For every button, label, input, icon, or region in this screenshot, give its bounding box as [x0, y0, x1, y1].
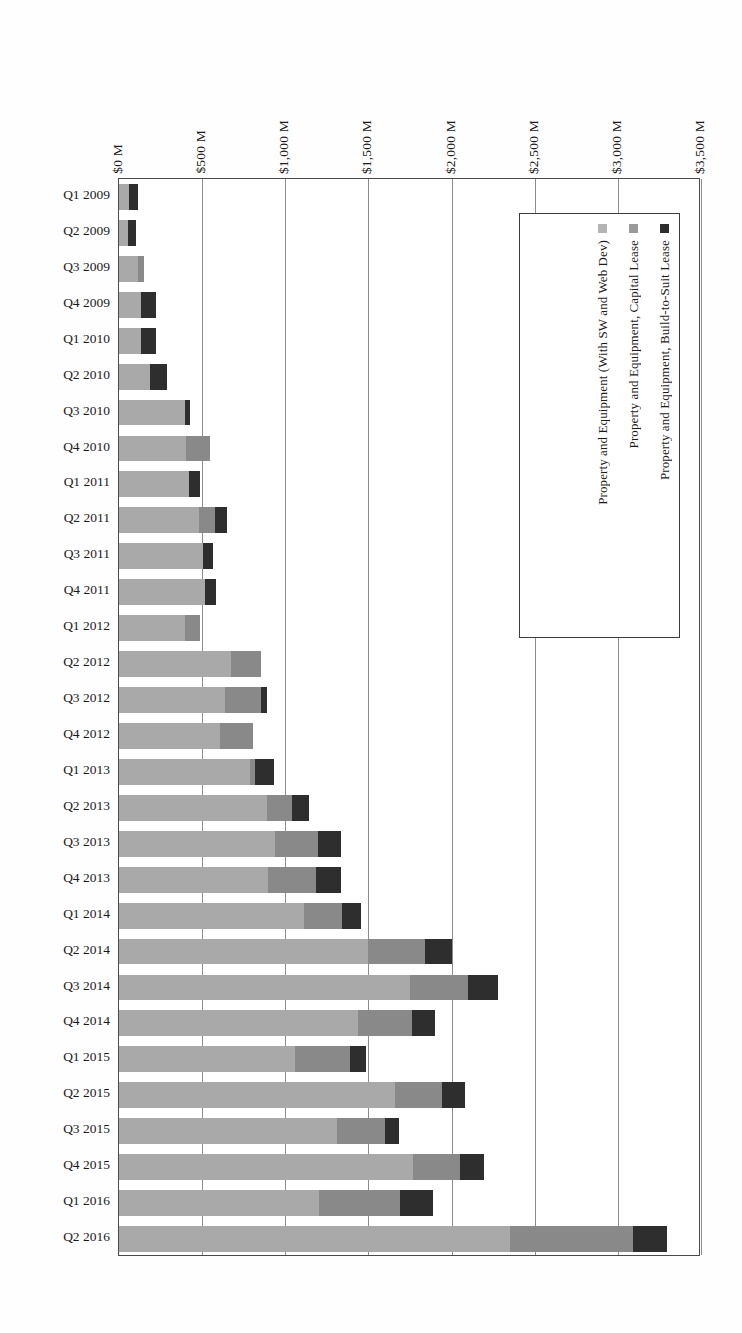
- bar-segment-build[interactable]: [189, 471, 201, 497]
- bar-segment-build[interactable]: [442, 1082, 465, 1108]
- legend-item-2[interactable]: Property and Equipment (With SW and Web …: [596, 224, 609, 627]
- bar-segment-capital[interactable]: [268, 867, 316, 893]
- stacked-bar[interactable]: [119, 1046, 366, 1072]
- bar-segment-base[interactable]: [119, 795, 267, 821]
- bar-segment-capital[interactable]: [225, 687, 261, 713]
- stacked-bar[interactable]: [119, 687, 267, 713]
- bar-segment-capital[interactable]: [199, 507, 216, 533]
- bar-segment-build[interactable]: [203, 543, 213, 569]
- stacked-bar[interactable]: [119, 975, 498, 1001]
- bar-segment-base[interactable]: [119, 184, 129, 210]
- bar-segment-base[interactable]: [119, 939, 368, 965]
- bar-segment-base[interactable]: [119, 1226, 510, 1252]
- bar-segment-base[interactable]: [119, 615, 185, 641]
- bar-segment-base[interactable]: [119, 400, 185, 426]
- bar-segment-base[interactable]: [119, 220, 128, 246]
- legend-item-1[interactable]: Property and Equipment, Capital Lease: [627, 224, 640, 627]
- bar-segment-capital[interactable]: [186, 436, 210, 462]
- bar-segment-capital[interactable]: [267, 795, 292, 821]
- bar-segment-base[interactable]: [119, 975, 410, 1001]
- bar-segment-capital[interactable]: [231, 651, 261, 677]
- stacked-bar[interactable]: [119, 615, 200, 641]
- stacked-bar[interactable]: [119, 364, 167, 390]
- stacked-bar[interactable]: [119, 651, 261, 677]
- bar-segment-build[interactable]: [385, 1118, 399, 1144]
- bar-segment-capital[interactable]: [358, 1010, 411, 1036]
- bar-segment-build[interactable]: [468, 975, 498, 1001]
- bar-segment-build[interactable]: [633, 1226, 667, 1252]
- stacked-bar[interactable]: [119, 579, 216, 605]
- bar-segment-base[interactable]: [119, 256, 138, 282]
- stacked-bar[interactable]: [119, 543, 213, 569]
- bar-segment-build[interactable]: [261, 687, 267, 713]
- bar-segment-build[interactable]: [255, 759, 273, 785]
- bar-segment-base[interactable]: [119, 436, 186, 462]
- bar-segment-build[interactable]: [150, 364, 167, 390]
- stacked-bar[interactable]: [119, 1118, 399, 1144]
- bar-segment-capital[interactable]: [304, 903, 342, 929]
- bar-segment-base[interactable]: [119, 1010, 358, 1036]
- bar-segment-build[interactable]: [400, 1190, 433, 1216]
- bar-segment-base[interactable]: [119, 1118, 337, 1144]
- stacked-bar[interactable]: [119, 939, 452, 965]
- bar-segment-build[interactable]: [215, 507, 227, 533]
- bar-segment-base[interactable]: [119, 903, 304, 929]
- stacked-bar[interactable]: [119, 292, 156, 318]
- bar-segment-capital[interactable]: [337, 1118, 385, 1144]
- bar-segment-base[interactable]: [119, 759, 250, 785]
- bar-segment-base[interactable]: [119, 651, 231, 677]
- bar-segment-build[interactable]: [460, 1154, 484, 1180]
- bar-segment-capital[interactable]: [395, 1082, 442, 1108]
- bar-segment-base[interactable]: [119, 507, 199, 533]
- stacked-bar[interactable]: [119, 1154, 484, 1180]
- stacked-bar[interactable]: [119, 220, 136, 246]
- stacked-bar[interactable]: [119, 436, 210, 462]
- bar-segment-base[interactable]: [119, 723, 220, 749]
- bar-segment-capital[interactable]: [220, 723, 252, 749]
- bar-segment-capital[interactable]: [275, 831, 317, 857]
- bar-segment-capital[interactable]: [413, 1154, 460, 1180]
- bar-segment-build[interactable]: [425, 939, 452, 965]
- bar-segment-base[interactable]: [119, 543, 203, 569]
- stacked-bar[interactable]: [119, 1190, 433, 1216]
- bar-segment-build[interactable]: [128, 220, 136, 246]
- stacked-bar[interactable]: [119, 507, 227, 533]
- bar-segment-build[interactable]: [342, 903, 361, 929]
- bar-segment-build[interactable]: [141, 328, 155, 354]
- bar-segment-capital[interactable]: [295, 1046, 350, 1072]
- stacked-bar[interactable]: [119, 328, 156, 354]
- bar-segment-build[interactable]: [318, 831, 341, 857]
- bar-segment-build[interactable]: [205, 579, 216, 605]
- bar-segment-build[interactable]: [185, 400, 190, 426]
- stacked-bar[interactable]: [119, 867, 341, 893]
- bar-segment-build[interactable]: [316, 867, 341, 893]
- stacked-bar[interactable]: [119, 1010, 435, 1036]
- stacked-bar[interactable]: [119, 400, 190, 426]
- bar-segment-build[interactable]: [412, 1010, 435, 1036]
- bar-segment-build[interactable]: [141, 292, 156, 318]
- bar-segment-base[interactable]: [119, 471, 189, 497]
- bar-segment-base[interactable]: [119, 1082, 395, 1108]
- bar-segment-base[interactable]: [119, 1190, 319, 1216]
- stacked-bar[interactable]: [119, 903, 361, 929]
- stacked-bar[interactable]: [119, 1082, 465, 1108]
- bar-segment-capital[interactable]: [138, 256, 144, 282]
- bar-segment-build[interactable]: [350, 1046, 366, 1072]
- stacked-bar[interactable]: [119, 256, 144, 282]
- stacked-bar[interactable]: [119, 184, 138, 210]
- bar-segment-base[interactable]: [119, 328, 141, 354]
- bar-segment-base[interactable]: [119, 1046, 295, 1072]
- bar-segment-capital[interactable]: [368, 939, 425, 965]
- bar-segment-capital[interactable]: [185, 615, 201, 641]
- stacked-bar[interactable]: [119, 795, 309, 821]
- bar-segment-base[interactable]: [119, 292, 141, 318]
- bar-segment-base[interactable]: [119, 579, 205, 605]
- bar-segment-base[interactable]: [119, 1154, 413, 1180]
- stacked-bar[interactable]: [119, 831, 341, 857]
- stacked-bar[interactable]: [119, 471, 200, 497]
- stacked-bar[interactable]: [119, 759, 274, 785]
- bar-segment-base[interactable]: [119, 364, 150, 390]
- bar-segment-capital[interactable]: [410, 975, 468, 1001]
- bar-segment-base[interactable]: [119, 687, 225, 713]
- bar-segment-build[interactable]: [292, 795, 309, 821]
